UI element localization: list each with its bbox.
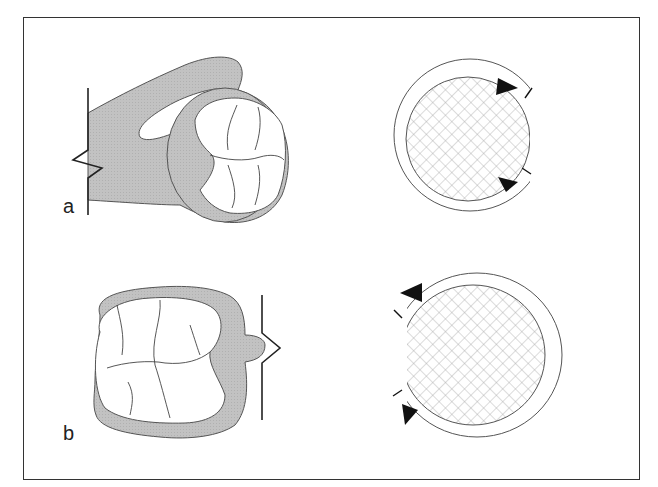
panel-a-tooth: [73, 57, 288, 222]
panel-label-b: b: [63, 422, 74, 445]
panel-label-a: a: [63, 195, 74, 218]
panel-a-circle-diagram: [394, 59, 560, 211]
arrow-icon: [400, 283, 422, 302]
panel-b-tooth: [94, 286, 280, 438]
panel-b-circle-diagram: [385, 273, 562, 437]
diagram-canvas: [0, 0, 658, 487]
